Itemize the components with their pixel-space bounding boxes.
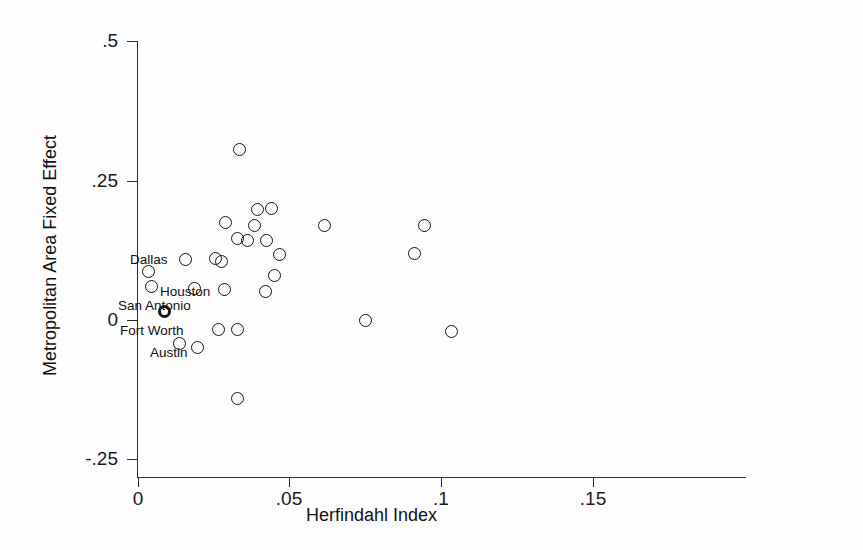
data-point (445, 325, 458, 338)
scatter-plot-figure: .5 .25 0 -.25 0 .05 .1 .15 Herfindahl In… (0, 0, 863, 550)
data-point (231, 392, 244, 405)
data-point (218, 283, 231, 296)
x-tick-mark (593, 477, 594, 487)
data-point (408, 247, 421, 260)
data-point (259, 285, 272, 298)
data-point (273, 248, 286, 261)
data-point (179, 253, 192, 266)
data-point (215, 255, 228, 268)
y-tick-mark (127, 320, 137, 321)
data-point (233, 143, 246, 156)
plot-area: .5 .25 0 -.25 0 .05 .1 .15 Herfindahl In… (0, 0, 863, 550)
data-point (248, 219, 261, 232)
data-point (260, 234, 273, 247)
data-point (231, 323, 244, 336)
data-point (219, 216, 232, 229)
data-point (318, 219, 331, 232)
data-point (251, 203, 264, 216)
point-label-houston: Houston (160, 284, 210, 299)
y-axis-title: Metropolitan Area Fixed Effect (40, 26, 61, 486)
data-point (191, 341, 204, 354)
y-tick-mark (127, 41, 137, 42)
point-label-dallas: Dallas (130, 252, 168, 267)
y-tick-mark (127, 459, 137, 460)
data-point (265, 202, 278, 215)
point-label-austin: Austin (150, 345, 188, 360)
y-tick-mark (127, 181, 137, 182)
x-tick-mark (289, 477, 290, 487)
data-point (212, 323, 225, 336)
data-point (145, 280, 158, 293)
data-point (268, 269, 281, 282)
data-point (418, 219, 431, 232)
x-tick-mark (441, 477, 442, 487)
x-tick-mark (138, 477, 139, 487)
data-point (359, 314, 372, 327)
data-point (241, 234, 254, 247)
x-axis-title: Herfindahl Index (0, 505, 743, 526)
point-label-fort-worth: Fort Worth (120, 323, 184, 338)
point-label-san-antonio: San Antonio (118, 298, 191, 313)
